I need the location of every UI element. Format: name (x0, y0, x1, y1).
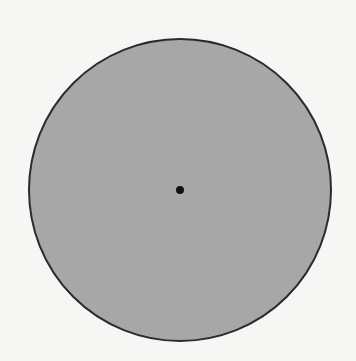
center-point (176, 186, 184, 194)
diagram-canvas (0, 0, 356, 361)
